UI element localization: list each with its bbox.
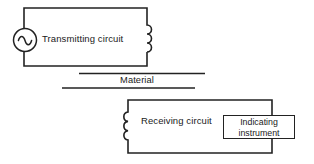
indicating-instrument-label-line1: Indicating xyxy=(224,117,294,128)
ac-source-icon xyxy=(14,29,37,52)
circuit-diagram: Transmitting circuit Material Receiving … xyxy=(0,0,314,164)
indicating-instrument-box: Indicating instrument xyxy=(223,115,295,139)
transmitting-circuit-label: Transmitting circuit xyxy=(42,33,123,45)
material-label: Material xyxy=(79,75,195,86)
indicating-instrument-label-line2: instrument xyxy=(224,128,294,139)
receiving-circuit-label: Receiving circuit xyxy=(141,115,212,127)
